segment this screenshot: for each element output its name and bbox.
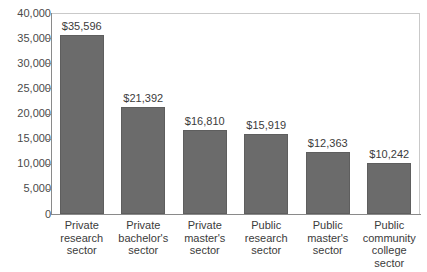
x-axis-category-line: college (355, 244, 425, 257)
bar[interactable] (60, 35, 104, 214)
bar-value-label: $21,392 (107, 92, 181, 104)
x-axis-category-label: Privatebachelor'ssector (109, 219, 179, 257)
x-axis-category-label: Publiccommunitycollegesector (355, 219, 425, 269)
bar-chart: 40,00035,00030,00025,00020,00015,00010,0… (0, 0, 427, 272)
bar-value-label: $35,596 (45, 20, 119, 32)
x-axis-category-line: Private (47, 219, 117, 232)
x-axis-category-label: Publicresearchsector (232, 219, 302, 257)
x-axis-category-line: research (232, 232, 302, 245)
x-axis-category-line: sector (170, 244, 240, 257)
x-axis-category-line: sector (232, 244, 302, 257)
bars-layer: $35,596Privateresearchsector$21,392Priva… (0, 0, 427, 272)
bar-value-label: $15,919 (230, 119, 304, 131)
x-axis-category-line: sector (293, 244, 363, 257)
x-axis-category-line: Private (109, 219, 179, 232)
bar-value-label: $10,242 (353, 148, 427, 160)
x-axis-category-label: Privateresearchsector (47, 219, 117, 257)
x-axis-category-line: Private (170, 219, 240, 232)
x-axis-category-line: master's (293, 232, 363, 245)
x-axis-category-line: community (355, 232, 425, 245)
x-axis-category-label: Privatemaster'ssector (170, 219, 240, 257)
x-axis-category-line: master's (170, 232, 240, 245)
x-axis-category-label: Publicmaster'ssector (293, 219, 363, 257)
x-axis-category-line: sector (109, 244, 179, 257)
x-axis-category-line: research (47, 232, 117, 245)
x-axis-category-line: Public (232, 219, 302, 232)
bar[interactable] (183, 130, 227, 214)
bar[interactable] (306, 152, 350, 214)
x-axis-category-line: sector (355, 257, 425, 270)
x-axis-category-line: bachelor's (109, 232, 179, 245)
x-axis-category-line: sector (47, 244, 117, 257)
bar[interactable] (367, 163, 411, 214)
bar[interactable] (121, 107, 165, 214)
x-axis-category-line: Public (293, 219, 363, 232)
x-axis-category-line: Public (355, 219, 425, 232)
bar[interactable] (244, 134, 288, 214)
